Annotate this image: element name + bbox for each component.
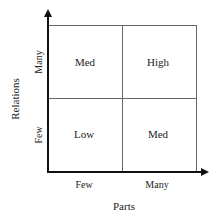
cell-top-right: High — [147, 56, 169, 68]
grid-right-line — [196, 25, 197, 172]
y-tick-many: Many — [33, 50, 44, 73]
cell-top-left: Med — [75, 56, 95, 68]
cell-bottom-right: Med — [148, 128, 168, 140]
y-tick-few: Few — [33, 126, 44, 143]
x-tick-many: Many — [145, 179, 168, 190]
cell-bottom-left: Low — [74, 128, 94, 140]
x-tick-few: Few — [75, 179, 92, 190]
y-axis-title: Relations — [9, 78, 21, 120]
x-axis-title: Parts — [113, 200, 135, 212]
y-axis — [47, 14, 49, 173]
x-axis — [47, 171, 203, 173]
y-axis-arrow-icon — [44, 9, 52, 17]
grid-middle-vertical-line — [122, 25, 123, 172]
x-axis-arrow-icon — [201, 168, 209, 176]
